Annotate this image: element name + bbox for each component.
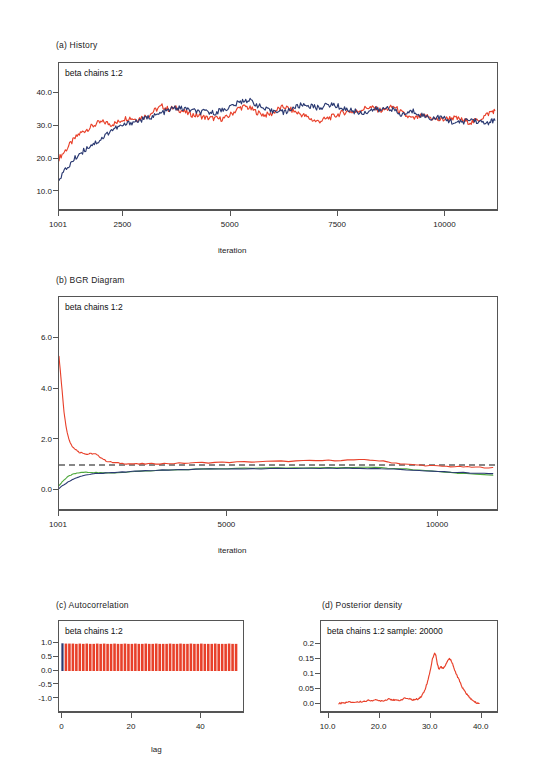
- panel-c-xtick: 40: [196, 722, 205, 731]
- panel-a-ytick: 40.0: [16, 88, 52, 97]
- panel-d-xtick: 10.0: [320, 722, 336, 731]
- panel-a-xtick-mark: [58, 211, 59, 216]
- panel-c-ytick: 1.0: [16, 638, 52, 647]
- panel-b-title: (b) BGR Diagram: [56, 275, 125, 285]
- panel-b-xtick-mark: [437, 511, 438, 516]
- panel-a-xtick: 5000: [221, 220, 239, 229]
- panel-a-xtick: 2500: [113, 220, 131, 229]
- panel-c-legend: beta chains 1:2: [65, 626, 123, 636]
- panel-a-canvas: [59, 63, 497, 209]
- panel-c-axis-line: [58, 712, 244, 713]
- panel-d-xtick-mark: [379, 713, 380, 718]
- panel-a-ytick: 10.0: [16, 186, 52, 195]
- panel-a-title: (a) History: [56, 40, 97, 50]
- panel-d-title: (d) Posterior density: [322, 600, 402, 610]
- panel-a-xtick: 7500: [328, 220, 346, 229]
- panel-b-legend: beta chains 1:2: [65, 302, 123, 312]
- panel-c-plot: beta chains 1:2: [58, 620, 244, 712]
- panel-d-axis-line: [320, 712, 498, 713]
- panel-b-canvas: [59, 297, 497, 509]
- panel-b-ytick: 0.0: [16, 485, 52, 494]
- panel-b-xtick-mark: [226, 511, 227, 516]
- panel-b-axis-vline: [58, 296, 59, 511]
- panel-b-ytick: 6.0: [16, 333, 52, 342]
- panel-a-xtick: 10000: [433, 220, 455, 229]
- panel-b-ytick: 2.0: [16, 434, 52, 443]
- panel-a-xtick: 1001: [49, 220, 67, 229]
- panel-d-ytick: 0.1: [280, 669, 314, 678]
- panel-a-ytick: 20.0: [16, 154, 52, 163]
- panel-c-xtick-mark: [200, 713, 201, 718]
- panel-c-xtick: 20: [126, 722, 135, 731]
- panel-a-xtick-mark: [122, 211, 123, 216]
- panel-a-axis-vline: [58, 62, 59, 211]
- panel-d-xtick-mark: [481, 713, 482, 718]
- panel-d-legend: beta chains 1:2 sample: 20000: [327, 626, 443, 636]
- panel-d-axis-vline: [320, 620, 321, 713]
- panel-a-xtick-mark: [337, 211, 338, 216]
- panel-d-plot: beta chains 1:2 sample: 20000: [320, 620, 498, 712]
- panel-c-xtick-mark: [131, 713, 132, 718]
- panel-c-title: (c) Autocorrelation: [56, 600, 129, 610]
- panel-c-ytick: -1.0: [16, 693, 52, 702]
- panel-b-xtick: 1001: [49, 520, 67, 529]
- panel-d-xtick: 30.0: [422, 722, 438, 731]
- panel-b-axis-line: [58, 510, 498, 511]
- panel-b-xtick: 10000: [426, 520, 448, 529]
- panel-d-xtick-mark: [430, 713, 431, 718]
- panel-b-xlabel: iteration: [218, 546, 246, 555]
- panel-d-ytick: 0.15: [280, 654, 314, 663]
- panel-a-legend: beta chains 1:2: [65, 68, 123, 78]
- panel-d-ytick: 0.05: [280, 684, 314, 693]
- panel-a-xlabel: iteration: [218, 246, 246, 255]
- panel-d-ytick: 0.2: [280, 639, 314, 648]
- panel-c-ytick: 0.5: [16, 652, 52, 661]
- panel-c-axis-vline: [58, 620, 59, 713]
- panel-a-axis-line: [58, 210, 498, 211]
- panel-d-ytick: 0.0: [280, 699, 314, 708]
- panel-c-xtick: 0: [59, 722, 63, 731]
- panel-b-xtick-mark: [58, 511, 59, 516]
- panel-c-ytick: 0.0: [16, 666, 52, 675]
- panel-a-plot: beta chains 1:2: [58, 62, 498, 210]
- panel-d-xtick: 20.0: [371, 722, 387, 731]
- panel-b-ytick: 4.0: [16, 384, 52, 393]
- panel-c-ytick: -0.5: [16, 679, 52, 688]
- panel-a-xtick-mark: [230, 211, 231, 216]
- panel-b-plot: beta chains 1:2: [58, 296, 498, 510]
- panel-b-xtick: 5000: [218, 520, 236, 529]
- panel-d-xtick: 40.0: [473, 722, 489, 731]
- panel-d-xtick-mark: [328, 713, 329, 718]
- panel-a-ytick: 30.0: [16, 121, 52, 130]
- panel-c-xlabel: lag: [151, 745, 162, 754]
- panel-a-xtick-mark: [444, 211, 445, 216]
- panel-c-xtick-mark: [61, 713, 62, 718]
